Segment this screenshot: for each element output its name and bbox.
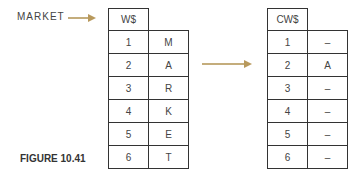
target-value-cell: – xyxy=(308,77,348,100)
source-index-cell: 2 xyxy=(109,54,149,77)
source-index-cell: 3 xyxy=(109,77,149,100)
source-index-cell: 5 xyxy=(109,123,149,146)
target-index-cell: 2 xyxy=(268,54,308,77)
target-index-cell: 3 xyxy=(268,77,308,100)
target-value-cell: – xyxy=(308,100,348,123)
source-index-cell: 6 xyxy=(109,146,149,169)
source-value-cell: K xyxy=(149,100,189,123)
market-label: MARKET xyxy=(17,11,65,22)
source-array-name: W$ xyxy=(108,8,149,31)
figure-caption: FIGURE 10.41 xyxy=(20,153,86,164)
source-value-cell: M xyxy=(149,31,189,54)
target-value-cell: – xyxy=(308,31,348,54)
target-index-cell: 6 xyxy=(268,146,308,169)
source-value-cell: T xyxy=(149,146,189,169)
source-array-table: 1 M 2 A 3 R 4 K 5 E 6 T xyxy=(108,30,189,169)
target-value-cell: – xyxy=(308,123,348,146)
target-value-cell: A xyxy=(308,54,348,77)
source-index-cell: 1 xyxy=(109,31,149,54)
target-array-name: CW$ xyxy=(267,8,308,31)
source-value-cell: R xyxy=(149,77,189,100)
target-index-cell: 1 xyxy=(268,31,308,54)
source-value-cell: A xyxy=(149,54,189,77)
source-index-cell: 4 xyxy=(109,100,149,123)
target-value-cell: – xyxy=(308,146,348,169)
market-pointer-arrow-icon xyxy=(68,17,94,19)
target-index-cell: 4 xyxy=(268,100,308,123)
target-array-table: 1 – 2 A 3 – 4 – 5 – 6 – xyxy=(267,30,348,169)
source-value-cell: E xyxy=(149,123,189,146)
copy-arrow-icon xyxy=(202,63,250,65)
target-index-cell: 5 xyxy=(268,123,308,146)
